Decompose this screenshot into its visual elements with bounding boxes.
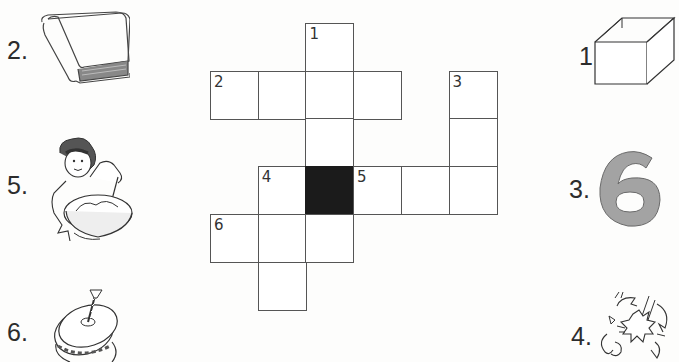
cell-number: 6 <box>214 216 224 234</box>
crossword-cell[interactable]: 2 <box>210 71 259 120</box>
cell-number: 5 <box>357 168 367 186</box>
crossword-cell[interactable]: 6 <box>210 214 259 263</box>
crossword-cell[interactable] <box>305 214 354 263</box>
crossword-cell[interactable] <box>305 71 354 120</box>
crossword-cell[interactable]: 4 <box>258 166 307 215</box>
cell-number: 2 <box>214 73 224 91</box>
crossword-cell[interactable] <box>258 262 307 311</box>
crossword-cell[interactable] <box>449 118 498 167</box>
crossword-cell[interactable] <box>305 118 354 167</box>
cell-number: 1 <box>309 25 319 43</box>
crossword-cell[interactable] <box>449 166 498 215</box>
crossword-cell[interactable]: 1 <box>305 23 354 72</box>
cell-number: 3 <box>453 73 463 91</box>
crossword-grid: 123456 <box>0 0 679 362</box>
crossword-cell[interactable] <box>258 71 307 120</box>
crossword-cell[interactable]: 5 <box>353 166 402 215</box>
crossword-cell[interactable]: 3 <box>449 71 498 120</box>
crossword-cell[interactable] <box>353 71 402 120</box>
cell-number: 4 <box>262 168 272 186</box>
crossword-cell[interactable] <box>401 166 450 215</box>
black-cell <box>305 166 354 215</box>
crossword-cell[interactable] <box>258 214 307 263</box>
